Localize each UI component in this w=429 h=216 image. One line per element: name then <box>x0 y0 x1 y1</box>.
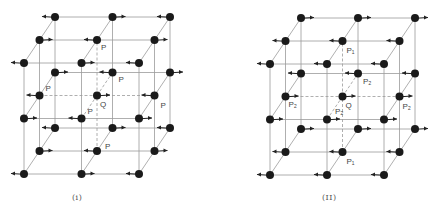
atom-sphere <box>380 60 388 68</box>
arrowhead-icon <box>100 70 104 74</box>
atom-sphere <box>380 171 388 179</box>
atom <box>297 125 314 133</box>
arrowhead-icon <box>371 173 375 177</box>
atom-sphere <box>93 92 101 100</box>
atom <box>36 36 53 44</box>
lattice-atoms <box>257 14 428 179</box>
atom-sphere <box>78 170 86 178</box>
atom-sphere <box>266 171 274 179</box>
atom-sphere <box>20 115 28 123</box>
caption-i: (i) <box>72 193 82 202</box>
arrowhead-icon <box>402 71 406 75</box>
atom-sphere <box>411 70 419 78</box>
atom-sphere <box>109 13 117 21</box>
atom <box>27 92 44 100</box>
atom-sphere <box>323 171 331 179</box>
arrowhead-icon <box>84 38 88 42</box>
arrowhead-icon <box>42 126 46 130</box>
atom <box>371 60 388 68</box>
arrowhead-icon <box>279 117 283 121</box>
label-p: P <box>105 142 110 151</box>
atom-sphere <box>93 36 101 44</box>
atom <box>78 59 95 67</box>
arrowhead-icon <box>314 62 318 66</box>
label-q: Q <box>346 101 352 110</box>
atom-sphere <box>396 93 404 101</box>
atom-sphere <box>282 37 290 45</box>
atom-sphere <box>354 70 362 78</box>
arrowhead-icon <box>314 173 318 177</box>
atom <box>142 92 159 100</box>
atom-sphere <box>380 116 388 124</box>
atom-sphere <box>297 70 305 78</box>
atom <box>84 36 101 44</box>
atom-sphere <box>20 170 28 178</box>
atom-sphere <box>297 14 305 22</box>
arrowhead-icon <box>257 62 261 66</box>
arrowhead-icon <box>157 126 161 130</box>
atom-sphere <box>282 148 290 156</box>
arrowhead-icon <box>288 71 292 75</box>
atom <box>84 147 101 155</box>
atom-sphere <box>78 115 86 123</box>
arrowhead-icon <box>91 61 95 65</box>
atom-sphere <box>51 69 59 77</box>
atom <box>314 60 331 68</box>
atom-sphere <box>51 13 59 21</box>
atom <box>257 171 274 179</box>
site-labels: QPPPPPP <box>46 43 166 151</box>
label-p: P <box>101 43 106 52</box>
atom <box>387 37 404 45</box>
atom <box>51 69 68 77</box>
atom <box>330 37 347 45</box>
arrowhead-icon <box>393 117 397 121</box>
arrowhead-icon <box>122 126 126 130</box>
arrowhead-icon <box>179 70 183 74</box>
arrowhead-icon <box>49 38 53 42</box>
arrowhead-icon <box>409 94 413 98</box>
atom-sphere <box>135 115 143 123</box>
atom <box>151 147 168 155</box>
atom <box>135 115 152 123</box>
atom <box>157 124 174 132</box>
arrowhead-icon <box>164 38 168 42</box>
arrowhead-icon <box>106 93 110 97</box>
arrowhead-icon <box>157 15 161 19</box>
atom-sphere <box>109 69 117 77</box>
atom-sphere <box>109 124 117 132</box>
arrowhead-icon <box>257 173 261 177</box>
atom-sphere <box>151 92 159 100</box>
arrowhead-icon <box>49 149 53 153</box>
atom <box>354 14 371 22</box>
atom <box>380 116 397 124</box>
atom <box>257 60 274 68</box>
atom <box>345 70 362 78</box>
atom-sphere <box>36 92 44 100</box>
arrowhead-icon <box>295 94 299 98</box>
arrowhead-icon <box>273 39 277 43</box>
atom <box>266 116 283 124</box>
atom-sphere <box>166 13 174 21</box>
arrowhead-icon <box>64 70 68 74</box>
atom-sphere <box>323 116 331 124</box>
atom <box>109 124 126 132</box>
arrowhead-icon <box>69 116 73 120</box>
lattice-panel-i: QPPPPPP <box>11 13 183 178</box>
arrowhead-icon <box>371 62 375 66</box>
atom <box>93 92 110 100</box>
arrowhead-icon <box>142 93 146 97</box>
atom <box>273 148 290 156</box>
arrowhead-icon <box>330 150 334 154</box>
arrowhead-icon <box>273 150 277 154</box>
label-p: P₁ <box>347 157 355 166</box>
arrowhead-icon <box>310 127 314 131</box>
atom-sphere <box>396 37 404 45</box>
atom-sphere <box>354 125 362 133</box>
atom-sphere <box>135 170 143 178</box>
atom <box>20 115 37 123</box>
atom <box>411 125 428 133</box>
label-p: P <box>46 84 51 93</box>
atom-sphere <box>151 147 159 155</box>
arrowhead-icon <box>424 16 428 20</box>
atom <box>100 69 117 77</box>
